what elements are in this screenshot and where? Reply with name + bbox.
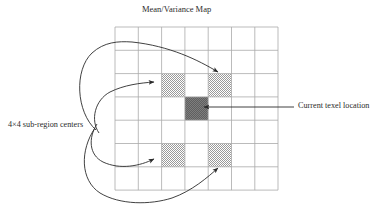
- cell-sub-region-center-top-left: [162, 74, 185, 97]
- leader-to-bottom-left-cell: [91, 124, 154, 166]
- diagram-canvas: [0, 0, 382, 211]
- cell-sub-region-center-top-right: [208, 74, 231, 97]
- leader-to-bottom-right-cell: [84, 128, 218, 203]
- mean-variance-map-figure: Mean/Variance Map 4×4 sub-region centers…: [0, 0, 382, 211]
- cell-current-texel: [185, 97, 208, 120]
- cell-sub-region-center-bottom-left: [162, 144, 185, 167]
- leader-curves: [80, 42, 218, 203]
- leader-to-top-left-cell: [95, 82, 154, 133]
- cell-sub-region-center-bottom-right: [208, 144, 231, 167]
